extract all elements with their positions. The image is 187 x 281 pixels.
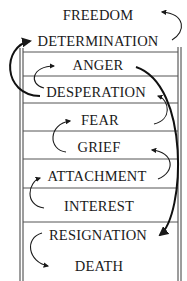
arrow-grief-to-fear	[53, 121, 70, 152]
arrow-determination-to-freedom	[162, 12, 181, 40]
level-anger: ANGER	[73, 57, 124, 73]
ladder-left-rail	[20, 48, 23, 281]
level-interest: INTEREST	[64, 198, 134, 214]
emotion-ladder-diagram: FREEDOM DETERMINATION ANGER DESPERATION …	[0, 0, 187, 281]
arrow-resignation-to-death	[31, 233, 48, 266]
ladder-rungs	[23, 52, 178, 222]
level-attachment: ATTACHMENT	[47, 168, 146, 184]
arrow-interest-to-attachment	[30, 178, 44, 208]
level-desperation: DESPERATION	[46, 84, 146, 100]
level-grief: GRIEF	[78, 139, 121, 155]
level-death: DEATH	[75, 258, 124, 274]
arrow-attachment-to-grief	[152, 150, 170, 179]
level-resignation: RESIGNATION	[49, 227, 147, 243]
level-determination: DETERMINATION	[37, 33, 158, 49]
arrow-desperation-to-determination	[10, 41, 40, 96]
level-fear: FEAR	[81, 112, 119, 128]
arrow-fear-to-desperation	[154, 96, 167, 124]
level-freedom: FREEDOM	[63, 7, 134, 23]
